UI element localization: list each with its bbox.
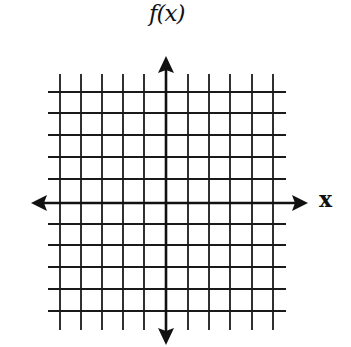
coordinate-grid [0,0,351,347]
x-axis [31,195,308,211]
x-axis-label: x [319,186,332,212]
y-axis-label: f(x) [149,0,184,26]
y-axis [158,56,174,345]
